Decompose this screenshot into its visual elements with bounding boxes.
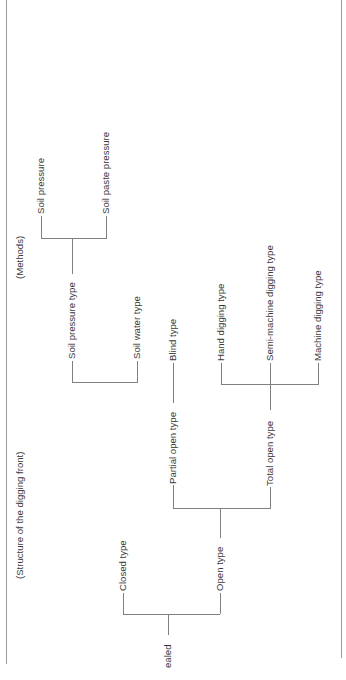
edge-partial-to-blind [173, 363, 174, 403]
edge-root-stem [168, 614, 169, 635]
edge-soil-pressure-stem [41, 216, 42, 238]
node-partial-open-type: Partial open type [168, 412, 178, 484]
edge-soil-pressure-bracket [41, 238, 107, 239]
edge-total-stem-upper [270, 363, 271, 410]
node-machine-digging-type: Machine digging type [313, 270, 323, 361]
node-soil-paste-pressure: Soil paste pressure [101, 132, 111, 214]
node-semi-machine-digging-type: Semi-machine digging type [265, 245, 275, 361]
node-soil-pressure: Soil pressure [36, 158, 46, 214]
right-border-line [341, 0, 342, 658]
edge-open-bracket [173, 508, 271, 509]
node-soil-pressure-type: Soil pressure type [67, 282, 77, 359]
edge-soil-types-bracket [72, 382, 138, 383]
edge-soil-pressure-type-stem [72, 361, 73, 382]
edge-partial-stem-lower [173, 485, 174, 508]
edge-soil-paste-pressure-stem [106, 216, 107, 238]
node-soil-water-type: Soil water type [132, 296, 142, 359]
edge-soil-pressure-type-upper [72, 238, 73, 274]
edge-root-bracket [123, 614, 220, 615]
node-total-open-type: Total open type [265, 421, 275, 486]
edge-soil-water-type-stem [137, 361, 138, 382]
node-root-sealed: ealed [163, 645, 173, 668]
edge-digging-bracket [221, 384, 319, 385]
edge-total-stem-lower [270, 487, 271, 508]
header-methods: (Methods) [15, 236, 25, 279]
node-blind-type: Blind type [168, 319, 178, 361]
edge-open-stem-lower [220, 593, 221, 614]
edge-machine-stem [318, 363, 319, 384]
edge-closed-stem [123, 593, 124, 614]
node-hand-digging-type: Hand digging type [216, 284, 226, 361]
node-open-type: Open type [215, 547, 225, 591]
tree-diagram: (Methods) (Structure of the digging fron… [0, 0, 346, 680]
header-structure: (Structure of the digging front) [15, 452, 25, 579]
node-closed-type: Closed type [118, 540, 128, 591]
edge-open-stem-upper [220, 508, 221, 538]
edge-hand-stem [221, 363, 222, 384]
left-border-line [6, 0, 7, 664]
